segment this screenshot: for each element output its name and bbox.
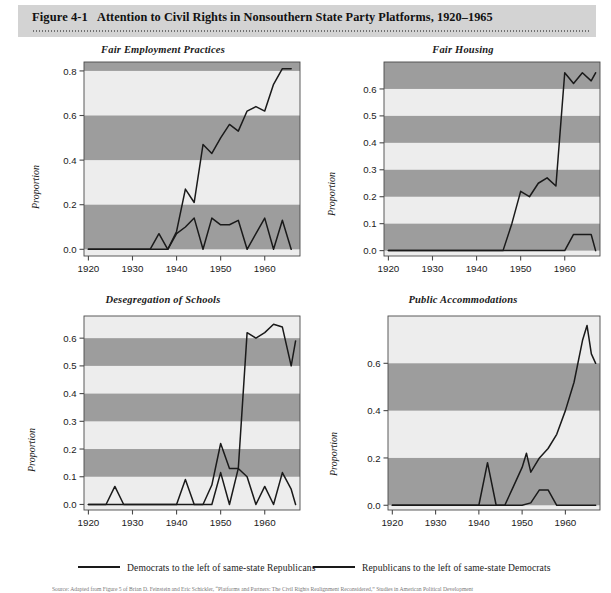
svg-text:1960: 1960 — [254, 263, 276, 274]
svg-text:0.2: 0.2 — [363, 191, 376, 202]
chart-panel-fair-housing: Fair Housing Proportion 0.00.10.20.30.40… — [318, 44, 608, 290]
svg-text:1920: 1920 — [78, 263, 100, 274]
svg-text:0.1: 0.1 — [63, 471, 76, 482]
figure-title: Attention to Civil Rights in Nonsouthern… — [97, 10, 493, 25]
svg-text:0.2: 0.2 — [63, 444, 76, 455]
svg-text:1950: 1950 — [511, 517, 533, 528]
svg-text:1960: 1960 — [554, 517, 576, 528]
svg-text:0.0: 0.0 — [363, 245, 376, 256]
svg-text:0.6: 0.6 — [367, 358, 380, 369]
plot-area-desegregation-of-schools: 0.00.10.20.30.40.50.61920193019401950196… — [18, 294, 308, 544]
svg-text:1920: 1920 — [78, 517, 100, 528]
svg-text:0.4: 0.4 — [363, 137, 377, 148]
svg-text:0.0: 0.0 — [63, 499, 76, 510]
svg-text:1940: 1940 — [166, 517, 188, 528]
svg-text:0.8: 0.8 — [63, 66, 76, 77]
svg-text:1950: 1950 — [210, 263, 232, 274]
chart-panel-grid: Fair Employment Practices Proportion 0.0… — [0, 44, 611, 544]
svg-text:1920: 1920 — [378, 263, 400, 274]
svg-text:0.0: 0.0 — [367, 500, 380, 511]
svg-text:0.3: 0.3 — [363, 164, 376, 175]
svg-text:0.6: 0.6 — [63, 333, 76, 344]
figure-number: Figure 4-1 — [32, 10, 88, 25]
svg-text:0.1: 0.1 — [363, 218, 376, 229]
chart-panel-desegregation-of-schools: Desegregation of Schools Proportion 0.00… — [18, 294, 308, 544]
svg-text:1930: 1930 — [422, 263, 444, 274]
plot-area-public-accommodations: 0.00.20.40.619201930194019501960 — [318, 294, 608, 544]
svg-text:1920: 1920 — [381, 517, 403, 528]
svg-text:0.3: 0.3 — [63, 416, 76, 427]
figure-header: Figure 4-1 Attention to Civil Rights in … — [18, 5, 596, 37]
legend-item-republicans: Republicans to the left of same-state De… — [313, 562, 551, 573]
svg-text:0.4: 0.4 — [367, 405, 381, 416]
plot-area-fair-employment-practices: 0.00.20.40.60.819201930194019501960 — [18, 44, 308, 290]
svg-text:0.4: 0.4 — [63, 155, 77, 166]
svg-text:0.6: 0.6 — [63, 110, 76, 121]
svg-text:1940: 1940 — [166, 263, 188, 274]
chart-panel-fair-employment-practices: Fair Employment Practices Proportion 0.0… — [18, 44, 308, 290]
legend-line-swatch-democrats — [78, 566, 120, 568]
svg-text:0.2: 0.2 — [367, 453, 380, 464]
legend-item-democrats: Democrats to the left of same-state Repu… — [78, 562, 316, 573]
svg-text:0.2: 0.2 — [63, 199, 76, 210]
source-note: Source: Adapted from Figure 5 of Brian D… — [52, 586, 604, 593]
svg-text:1950: 1950 — [510, 263, 532, 274]
svg-text:1930: 1930 — [425, 517, 447, 528]
header-dotted-rule — [32, 30, 590, 32]
legend-label-democrats: Democrats to the left of same-state Repu… — [127, 562, 316, 573]
svg-text:0.0: 0.0 — [63, 244, 76, 255]
svg-text:1940: 1940 — [466, 263, 488, 274]
legend-line-swatch-republicans — [313, 566, 355, 568]
svg-text:1930: 1930 — [122, 263, 144, 274]
svg-text:1960: 1960 — [254, 517, 276, 528]
svg-text:0.5: 0.5 — [363, 110, 376, 121]
svg-text:0.5: 0.5 — [63, 360, 76, 371]
chart-panel-public-accommodations: Public Accommodations Proportion 0.00.20… — [318, 294, 608, 544]
svg-text:1950: 1950 — [210, 517, 232, 528]
legend-label-republicans: Republicans to the left of same-state De… — [362, 562, 551, 573]
svg-text:0.6: 0.6 — [363, 84, 376, 95]
figure-legend: Democrats to the left of same-state Repu… — [0, 556, 611, 578]
svg-text:1930: 1930 — [122, 517, 144, 528]
svg-text:0.4: 0.4 — [63, 388, 77, 399]
svg-text:1960: 1960 — [554, 263, 576, 274]
plot-area-fair-housing: 0.00.10.20.30.40.50.61920193019401950196… — [318, 44, 608, 290]
svg-text:1940: 1940 — [468, 517, 490, 528]
